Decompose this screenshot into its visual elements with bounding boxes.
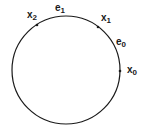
point-x1 [97, 26, 100, 29]
circle [12, 16, 120, 124]
point-x2 [36, 24, 39, 27]
label-x1: x1 [101, 13, 111, 25]
label-e0: e0 [116, 37, 126, 49]
label-x0: x0 [127, 65, 137, 77]
circle-diagram [0, 0, 147, 128]
label-e1: e1 [55, 3, 65, 15]
label-x2: x2 [27, 10, 37, 22]
point-x0 [119, 70, 122, 73]
